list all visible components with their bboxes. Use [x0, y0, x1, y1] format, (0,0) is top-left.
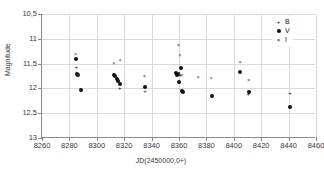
- gridline-vertical: [316, 14, 317, 137]
- data-point-i: [180, 74, 183, 80]
- data-point-v: [74, 57, 78, 61]
- data-point-v: [113, 74, 117, 78]
- data-point-b: [247, 91, 251, 97]
- data-point-v: [174, 71, 178, 75]
- legend-label: I: [285, 35, 287, 46]
- figure-caption: [0, 162, 322, 172]
- data-point-v: [118, 82, 122, 86]
- data-point-b: [75, 72, 79, 78]
- y-tick-label: 10,5: [22, 10, 37, 18]
- x-tick-label: 8300: [88, 142, 105, 150]
- gridline-vertical: [179, 14, 180, 137]
- x-tick-label: 8440: [280, 142, 297, 150]
- gridline-horizontal: [42, 88, 315, 89]
- data-point-v: [210, 94, 214, 98]
- data-point-v: [181, 90, 185, 94]
- gridline-vertical: [124, 14, 125, 137]
- y-tick: [38, 113, 42, 114]
- y-tick-label: 12: [29, 85, 37, 93]
- x-tick-label: 8340: [143, 142, 160, 150]
- data-point-v: [247, 90, 251, 94]
- legend-item-v: V: [275, 27, 290, 36]
- data-point-v: [180, 89, 184, 93]
- data-point-i: [76, 73, 79, 79]
- data-point-v: [112, 73, 116, 77]
- gridline-horizontal: [42, 113, 315, 114]
- y-tick-label: 11,5: [23, 60, 37, 68]
- x-tick-label: 8260: [34, 142, 51, 150]
- y-tick: [38, 39, 42, 40]
- data-point-v: [116, 79, 120, 83]
- gridline-vertical: [152, 14, 153, 137]
- x-tick-label: 8460: [308, 142, 324, 150]
- y-tick: [38, 14, 42, 15]
- y-axis-title: Magnitude: [4, 43, 11, 76]
- data-point-i: [247, 78, 250, 84]
- y-tick-label: 12,5: [22, 109, 37, 117]
- x-tick-label: 8380: [198, 142, 215, 150]
- y-tick-label: 11: [29, 35, 37, 43]
- x-tick-label: 8280: [61, 142, 78, 150]
- x-tick-label: 8400: [225, 142, 242, 150]
- data-point-i: [197, 76, 200, 82]
- data-point-v: [75, 72, 79, 76]
- data-point-i: [74, 52, 77, 58]
- data-point-b: [181, 89, 185, 95]
- gridline-horizontal: [42, 64, 315, 65]
- legend: +BV×I: [272, 16, 293, 47]
- gridline-vertical: [261, 14, 262, 137]
- data-point-i: [209, 77, 212, 83]
- cross-icon: ×: [275, 36, 282, 45]
- plus-icon: +: [275, 18, 282, 27]
- x-tick-label: 8320: [116, 142, 133, 150]
- legend-item-i: ×I: [275, 36, 290, 45]
- gridline-vertical: [206, 14, 207, 137]
- dot-icon: [275, 27, 282, 36]
- gridline-vertical: [234, 14, 235, 137]
- data-point-v: [115, 77, 119, 81]
- data-point-i: [143, 75, 146, 81]
- x-tick-label: 8420: [253, 142, 270, 150]
- gridline-vertical: [69, 14, 70, 137]
- y-tick: [38, 88, 42, 89]
- data-point-v: [76, 73, 80, 77]
- gridline-vertical: [97, 14, 98, 137]
- data-point-v: [238, 70, 242, 74]
- x-tick-label: 8360: [171, 142, 188, 150]
- gridline-horizontal: [42, 14, 315, 15]
- y-tick: [38, 64, 42, 65]
